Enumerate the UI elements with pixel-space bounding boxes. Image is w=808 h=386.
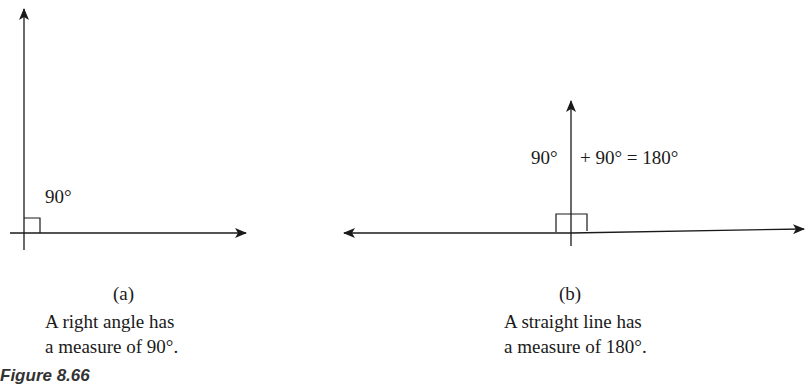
panel-a-right-angle (10, 9, 246, 250)
caption-b-line1: A straight line has (504, 309, 647, 334)
caption-b: A straight line has a measure of 180°. (504, 309, 647, 359)
caption-b-line2: a measure of 180°. (504, 334, 647, 359)
caption-a-line2: a measure of 90°. (45, 334, 178, 359)
figure-number: Figure 8.66 (0, 366, 90, 386)
angle-label-a: 90° (45, 187, 72, 206)
caption-a-line1: A right angle has (45, 309, 178, 334)
sub-label-a: (a) (113, 284, 134, 303)
caption-a: A right angle has a measure of 90°. (45, 309, 178, 359)
right-angle-marker-a (24, 218, 40, 233)
angle-label-b-left: 90° (531, 148, 558, 167)
sub-label-b: (b) (559, 284, 581, 303)
panel-b-straight-line (344, 101, 804, 246)
line-right-arrow-b (571, 229, 804, 233)
angle-label-b-right: + 90° = 180° (580, 148, 678, 167)
